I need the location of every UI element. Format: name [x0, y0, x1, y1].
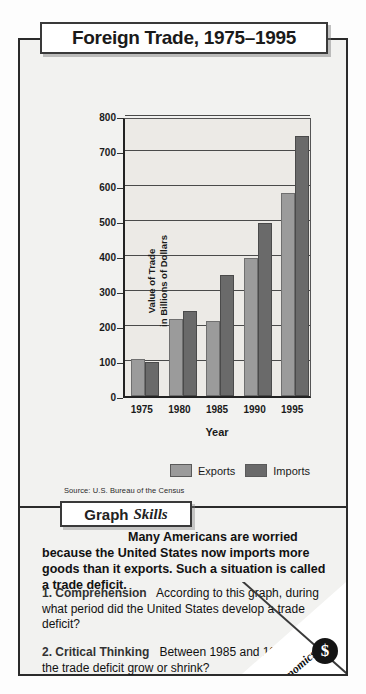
- legend-label: Exports: [198, 465, 235, 477]
- y-axis-tick-mark: [117, 188, 123, 189]
- chart-panel: Value of Trade in Billions of Dollars 80…: [20, 40, 346, 462]
- legend-item-imports: Imports: [245, 464, 310, 477]
- y-axis-tick-mark: [117, 153, 123, 154]
- y-axis-tick-mark: [117, 293, 123, 294]
- y-axis-tick-mark: [117, 328, 123, 329]
- y-axis-tick-label: 800: [82, 112, 116, 123]
- y-axis-tick-label: 200: [82, 322, 116, 333]
- y-axis-label-line1: Value of Trade: [146, 186, 158, 376]
- plot-area: Value of Trade in Billions of Dollars: [123, 118, 311, 398]
- question-category: Critical Thinking: [55, 645, 149, 659]
- x-axis-tick-label: 1980: [159, 404, 199, 415]
- question-category: Comprehension: [55, 586, 146, 600]
- y-axis-label: Value of Trade in Billions of Dollars: [146, 186, 170, 376]
- x-axis-label: Year: [123, 426, 311, 438]
- legend-item-exports: Exports: [170, 464, 235, 477]
- page-title: Foreign Trade, 1975–1995: [72, 27, 296, 49]
- y-axis-tick-label: 600: [82, 182, 116, 193]
- question-number: 2.: [42, 645, 52, 659]
- x-axis-tick-label: 1975: [122, 404, 162, 415]
- bar-imports-1980: [183, 311, 197, 396]
- worksheet-page: Value of Trade in Billions of Dollars 80…: [0, 0, 366, 694]
- bar-exports-1975: [131, 359, 145, 396]
- bar-group: [281, 136, 309, 396]
- y-axis-tick-mark: [117, 223, 123, 224]
- x-axis-tick-label: 1995: [272, 404, 312, 415]
- bar-exports-1990: [244, 258, 258, 396]
- y-axis-tick-label: 300: [82, 287, 116, 298]
- y-axis-tick-label: 700: [82, 147, 116, 158]
- source-note: Source: U.S. Bureau of the Census: [64, 486, 184, 495]
- y-axis-tick-label: 400: [82, 252, 116, 263]
- legend-swatch: [245, 464, 267, 477]
- y-axis-tick-label: 100: [82, 357, 116, 368]
- y-axis-tick-mark: [117, 398, 123, 399]
- content-card: Value of Trade in Billions of Dollars 80…: [18, 38, 348, 676]
- graph-skills-badge: Graph Skills: [60, 501, 192, 527]
- bar-group: [206, 275, 234, 396]
- bar-exports-1985: [206, 321, 220, 396]
- bar-imports-1985: [220, 275, 234, 396]
- chart-title-plate: Foreign Trade, 1975–1995: [40, 22, 328, 54]
- question-number: 1.: [42, 586, 52, 600]
- bar-exports-1995: [281, 193, 295, 396]
- graph-skills-word2: Skills: [134, 506, 168, 523]
- bar-group: [169, 311, 197, 396]
- y-axis-tick-mark: [117, 258, 123, 259]
- bar-imports-1990: [258, 223, 272, 396]
- y-axis-tick-mark: [117, 118, 123, 119]
- economics-corner-badge: Economics $: [242, 582, 346, 674]
- bar-group: [244, 223, 272, 396]
- x-axis-tick-label: 1985: [197, 404, 237, 415]
- x-axis-tick-label: 1990: [235, 404, 275, 415]
- legend-label: Imports: [273, 465, 310, 477]
- bar-imports-1995: [295, 136, 309, 396]
- y-axis-tick-label: 500: [82, 217, 116, 228]
- y-axis-label-line2: in Billions of Dollars: [158, 186, 170, 376]
- legend-swatch: [170, 464, 192, 477]
- chart-legend: ExportsImports: [170, 464, 310, 477]
- bar-exports-1980: [169, 319, 183, 396]
- y-axis-tick-label: 0: [82, 392, 116, 403]
- y-axis-tick-mark: [117, 363, 123, 364]
- dollar-coin-icon: $: [312, 638, 338, 664]
- graph-skills-word1: Graph: [84, 506, 128, 523]
- gridline: [125, 115, 310, 116]
